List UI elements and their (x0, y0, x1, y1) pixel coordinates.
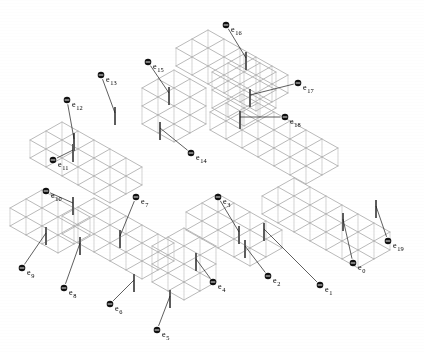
label-e2: e2 (273, 276, 280, 286)
label-e7: e7 (141, 197, 149, 207)
figure-root: e0e1e2e3e4e5e6e7e8e9e10e11e12e13e14e15e1… (0, 0, 424, 352)
leader-line-e11 (57, 150, 73, 158)
leader-line-e9 (24, 233, 46, 264)
leader-line-e8 (65, 243, 80, 284)
marker-e7[interactable] (133, 194, 140, 201)
label-e6: e6 (115, 304, 122, 314)
marker-e11[interactable] (50, 157, 57, 164)
marker-e8[interactable] (61, 285, 68, 292)
edge-markers (19, 22, 392, 334)
marker-e12[interactable] (64, 97, 71, 104)
leader-line-e1 (264, 229, 317, 282)
label-e19: e19 (393, 241, 404, 251)
marker-e3[interactable] (215, 194, 222, 201)
isometric-lattice-diagram: e0e1e2e3e4e5e6e7e8e9e10e11e12e13e14e15e1… (0, 0, 424, 352)
marker-e10[interactable] (43, 188, 50, 195)
marker-e9[interactable] (19, 265, 26, 272)
leader-lines (24, 29, 386, 326)
label-e13: e13 (106, 75, 117, 85)
marker-e16[interactable] (223, 22, 230, 29)
marker-e18[interactable] (282, 114, 289, 121)
marker-e4[interactable] (210, 279, 217, 286)
label-e17: e17 (303, 83, 314, 93)
leader-line-e5 (159, 296, 170, 326)
label-e1: e1 (325, 285, 332, 295)
label-e12: e12 (72, 100, 83, 110)
highlighted-edges (46, 52, 376, 308)
marker-e6[interactable] (107, 301, 114, 308)
marker-e14[interactable] (188, 150, 195, 157)
marker-e2[interactable] (265, 273, 272, 280)
label-e8: e8 (69, 288, 76, 298)
leader-line-e0 (343, 219, 352, 259)
marker-e19[interactable] (385, 238, 392, 245)
marker-e15[interactable] (145, 59, 152, 66)
label-e4: e4 (218, 282, 226, 292)
edge-labels: e0e1e2e3e4e5e6e7e8e9e10e11e12e13e14e15e1… (27, 25, 404, 340)
label-e11: e11 (58, 160, 68, 170)
marker-e1[interactable] (317, 282, 324, 289)
label-e9: e9 (27, 268, 34, 278)
leader-line-e6 (113, 280, 134, 301)
leader-line-e19 (376, 206, 387, 237)
marker-e0[interactable] (350, 260, 357, 267)
label-e5: e5 (162, 330, 169, 340)
label-e16: e16 (231, 25, 242, 35)
marker-e17[interactable] (295, 80, 302, 87)
marker-e13[interactable] (98, 72, 105, 79)
label-e15: e15 (153, 62, 164, 72)
marker-e5[interactable] (154, 327, 161, 334)
label-e10: e10 (51, 191, 62, 201)
leader-line-e12 (68, 104, 74, 139)
label-e18: e18 (290, 117, 301, 127)
label-e14: e14 (196, 153, 207, 163)
